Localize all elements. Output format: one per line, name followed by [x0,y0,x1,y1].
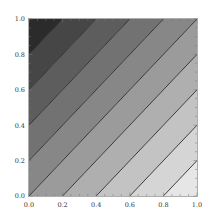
x-tick-label: 0.4 [91,201,101,209]
y-tick-label: 0.2 [15,157,25,165]
x-tick-label: 0.0 [24,201,34,209]
y-tick-label: 0.0 [15,192,25,200]
x-axis-tick-labels: 0.00.20.40.60.81.0 [24,201,202,209]
y-tick-label: 0.6 [15,86,25,94]
contour-plot: 0.00.20.40.60.81.0 0.00.20.40.60.81.0 [0,0,215,219]
contour-bands [0,0,215,219]
y-tick-label: 0.4 [15,122,25,130]
y-axis-tick-labels: 0.00.20.40.60.81.0 [15,15,25,200]
x-tick-label: 0.6 [125,201,135,209]
x-tick-label: 0.8 [158,201,168,209]
y-tick-label: 0.8 [15,51,25,59]
x-tick-label: 1.0 [192,201,202,209]
y-tick-label: 1.0 [15,15,25,23]
x-tick-label: 0.2 [57,201,67,209]
